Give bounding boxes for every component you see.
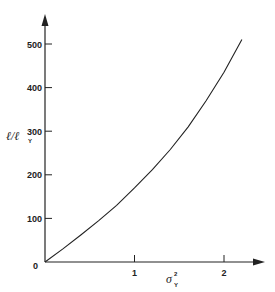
data-curve <box>45 40 242 262</box>
y-ticks: 100200300400500 <box>27 40 52 224</box>
y-tick-label: 200 <box>27 170 42 180</box>
y-tick-label: 500 <box>27 40 42 50</box>
y-tick-label: 100 <box>27 214 42 224</box>
x-axis-label: σ 2 Y <box>166 271 178 288</box>
x-tick-label: 1 <box>132 268 137 278</box>
svg-text:Y: Y <box>174 282 178 288</box>
y-tick-label: 400 <box>27 83 42 93</box>
svg-text:ℓ/ℓ: ℓ/ℓ <box>6 129 19 143</box>
chart: 100200300400500 12 0 ℓ/ℓ Y σ 2 Y <box>0 0 275 292</box>
svg-text:Y: Y <box>28 138 32 144</box>
svg-text:σ: σ <box>166 272 173 286</box>
axes <box>45 24 256 262</box>
svg-text:2: 2 <box>174 271 178 277</box>
origin-label: 0 <box>33 261 38 271</box>
x-axis-arrow-icon <box>253 259 265 266</box>
y-tick-label: 300 <box>27 127 42 137</box>
y-axis-arrow-icon <box>42 14 49 26</box>
x-ticks: 12 <box>132 255 227 278</box>
x-tick-label: 2 <box>221 268 226 278</box>
